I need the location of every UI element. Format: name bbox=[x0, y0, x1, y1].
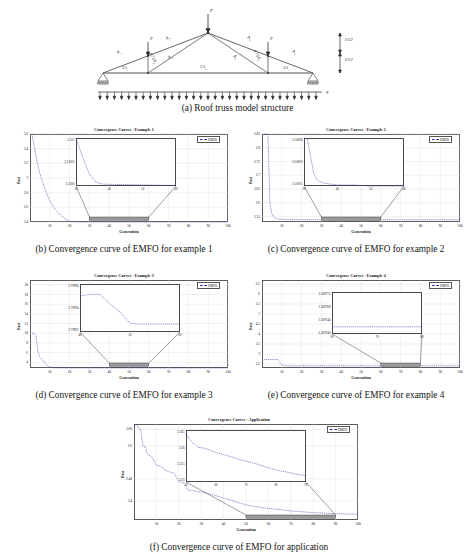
y-tick-label: 2.75 bbox=[254, 160, 260, 164]
x-tick-label: 100 bbox=[457, 370, 462, 374]
y-tick-label: 3.4 bbox=[24, 147, 28, 151]
y-tick-label: 12 bbox=[25, 322, 29, 326]
x-tick-label: 20 bbox=[300, 370, 304, 374]
panel-caption: (f) Convergence curve of EMFO for applic… bbox=[108, 542, 370, 552]
inset-x-tick-label: 40 bbox=[78, 333, 81, 337]
y-tick-label: 2.4 bbox=[128, 499, 132, 503]
x-tick-label: 90 bbox=[438, 224, 442, 228]
y-tick-label: 3 bbox=[26, 176, 28, 180]
x-tick-label: 10 bbox=[280, 370, 284, 374]
inset-y-tick-label: 2.79994 bbox=[68, 306, 78, 310]
chart-title: Convergence Curves - Application bbox=[108, 417, 370, 422]
inset-x-tick-label: 90 bbox=[304, 483, 307, 487]
y-tick-label: 4 bbox=[258, 332, 260, 336]
inset-plot bbox=[332, 292, 422, 334]
legend-line-icon bbox=[200, 139, 207, 140]
panel-chart-e: Convergence Curves - Example 41020304050… bbox=[240, 270, 472, 400]
inset-y-tick-label: 2.269740 bbox=[319, 331, 331, 335]
inset-y-tick-label: 2.50003 bbox=[292, 160, 302, 164]
y-tick-label: 5 bbox=[258, 312, 260, 316]
truss-member-label-right-outer-bottom: 3A1 bbox=[283, 65, 289, 72]
x-tick-label: 20 bbox=[68, 224, 72, 228]
chart-title: Convergence Curves - Example 1 bbox=[8, 127, 240, 132]
y-tick-label: 18 bbox=[25, 293, 29, 297]
legend[interactable]: EMFO bbox=[197, 136, 220, 143]
legend[interactable]: EMFO bbox=[429, 136, 452, 143]
y-axis-label: Best bbox=[16, 177, 21, 184]
x-tick-label: 90 bbox=[206, 370, 210, 374]
legend[interactable]: EMFO bbox=[429, 282, 452, 289]
panel-caption: (e) Convergence curve of EMFO for exampl… bbox=[240, 390, 472, 400]
y-tick-label: 14 bbox=[25, 312, 29, 316]
y-tick-label: 2.7 bbox=[256, 173, 260, 177]
x-tick-label: 70 bbox=[289, 522, 293, 526]
inset-x-tick-label: 60 bbox=[402, 187, 405, 191]
x-tick-label: 20 bbox=[300, 224, 304, 228]
x-tick-label: 40 bbox=[222, 522, 226, 526]
inset-x-tick-label: 40 bbox=[108, 187, 111, 191]
x-tick-label: 40 bbox=[107, 370, 111, 374]
panel-chart-f: Convergence Curves - Application10203040… bbox=[108, 412, 370, 552]
y-tick-label: 2.6 bbox=[256, 201, 260, 205]
inset-y-tick-label: 2.33001 bbox=[64, 160, 74, 164]
inset-plot bbox=[80, 284, 180, 332]
legend-line-icon bbox=[330, 429, 337, 430]
legend-label: EMFO bbox=[440, 138, 449, 142]
inset-y-tick-label: 2.50001 bbox=[292, 182, 302, 186]
y-tick-label: 2.4 bbox=[24, 220, 28, 224]
x-axis-label: Generation bbox=[119, 375, 138, 380]
inset-x-tick-label: 30 bbox=[74, 187, 77, 191]
x-tick-label: 80 bbox=[311, 522, 315, 526]
x-tick-label: 50 bbox=[127, 224, 131, 228]
panel-chart-b: Convergence Curves - Example 11020304050… bbox=[8, 124, 240, 254]
x-tick-label: 10 bbox=[48, 224, 52, 228]
inset-y-tick-label: 2.269768 bbox=[319, 305, 331, 309]
truss-load-left-label: P bbox=[150, 36, 153, 41]
panel-caption: (b) Convergence curve of EMFO for exampl… bbox=[8, 244, 240, 254]
y-tick-label: 2.65 bbox=[254, 187, 260, 191]
figure-page: P P P q l/12 l/12 A1 A2 A2 A1 3A1 2A2 3A… bbox=[0, 0, 475, 554]
x-tick-label: 80 bbox=[419, 370, 423, 374]
x-tick-label: 50 bbox=[127, 370, 131, 374]
chart-title: Convergence Curves - Example 4 bbox=[240, 273, 472, 278]
inset-x-tick-label: 80 bbox=[420, 335, 423, 339]
x-tick-label: 60 bbox=[379, 224, 383, 228]
x-tick-label: 80 bbox=[187, 370, 191, 374]
x-tick-label: 50 bbox=[359, 224, 363, 228]
truss-height-upper-label: l/12 bbox=[345, 37, 353, 42]
x-axis-label: Generation bbox=[119, 229, 138, 234]
inset-x-tick-label: 60 bbox=[178, 333, 181, 337]
chart-title: Convergence Curves - Example 3 bbox=[8, 273, 240, 278]
x-tick-label: 30 bbox=[320, 370, 324, 374]
y-tick-label: 2.6 bbox=[128, 444, 132, 448]
y-tick-label: 3.5 bbox=[256, 342, 260, 346]
x-tick-label: 80 bbox=[187, 224, 191, 228]
inset-x-tick-label: 40 bbox=[336, 187, 339, 191]
inset-x-tick-label: 50 bbox=[141, 187, 144, 191]
legend-label: EMFO bbox=[208, 284, 217, 288]
x-tick-label: 60 bbox=[267, 522, 271, 526]
y-axis-label: Best bbox=[248, 323, 253, 330]
y-tick-label: 4.5 bbox=[256, 322, 260, 326]
inset-y-tick-label: 2.50006 bbox=[292, 138, 302, 142]
y-tick-label: 16 bbox=[25, 302, 29, 306]
panel-roof-truss: P P P q l/12 l/12 A1 A2 A2 A1 3A1 2A2 3A… bbox=[0, 2, 475, 120]
legend-label: EMFO bbox=[338, 428, 347, 432]
legend[interactable]: EMFO bbox=[327, 426, 350, 433]
inset-y-tick-label: 2.79996 bbox=[68, 284, 78, 288]
inset-x-tick-label: 70 bbox=[244, 483, 247, 487]
y-axis-label: Best bbox=[248, 177, 253, 184]
x-axis-label: Generation bbox=[351, 229, 370, 234]
y-tick-label: 10 bbox=[25, 331, 29, 335]
truss-member-label-left-outer-bottom: 3A1 bbox=[122, 65, 128, 72]
legend[interactable]: EMFO bbox=[197, 282, 220, 289]
legend-label: EMFO bbox=[440, 284, 449, 288]
legend-line-icon bbox=[200, 285, 207, 286]
y-tick-label: 2.55 bbox=[254, 215, 260, 219]
panel-caption: (c) Convergence curve of EMFO for exampl… bbox=[240, 244, 472, 254]
panel-chart-c: Convergence Curves - Example 21020304050… bbox=[240, 124, 472, 254]
panel-chart-d: Convergence Curves - Example 31020304050… bbox=[8, 270, 240, 400]
y-axis-label: Best bbox=[120, 471, 125, 478]
x-tick-label: 10 bbox=[48, 370, 52, 374]
inset-x-tick-label: 60 bbox=[174, 187, 177, 191]
